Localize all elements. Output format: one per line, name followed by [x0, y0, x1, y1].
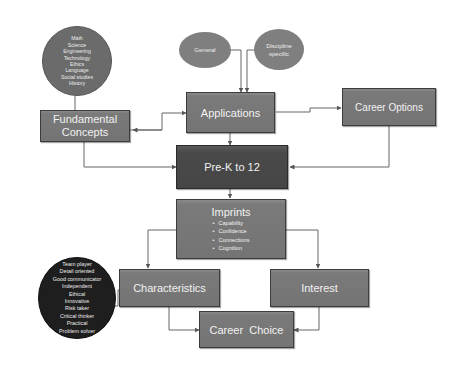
career-choice-box: Career Choice — [199, 311, 294, 348]
trait-item: Detail oriented — [60, 268, 95, 275]
discipline-label-line1: Discipline — [266, 42, 292, 50]
career-options-label: Career Options — [355, 102, 423, 113]
subject-item: History — [69, 80, 85, 86]
trait-item: Risk taker — [65, 305, 89, 312]
prek-to-12-label: Pre-K to 12 — [204, 161, 260, 173]
imprint-bullet: Capability — [212, 219, 249, 228]
career-choice-label: Career Choice — [210, 324, 284, 336]
imprint-bullet: Connections — [212, 236, 249, 245]
interest-box: Interest — [270, 269, 369, 307]
discipline-label-line2: specific — [269, 50, 289, 58]
fundamental-label-line2: Concepts — [62, 126, 108, 139]
career-options-box: Career Options — [342, 88, 436, 126]
imprints-bullet-list: Capability Confidence Connections Cognit… — [212, 219, 249, 253]
imprints-box: Imprints Capability Confidence Connectio… — [176, 199, 286, 259]
imprints-title: Imprints — [211, 206, 250, 218]
imprint-bullet: Confidence — [212, 227, 249, 236]
applications-label: Applications — [201, 107, 260, 119]
trait-item: Critical thinker — [60, 313, 94, 320]
fundamental-label-line1: Fundamental — [53, 113, 117, 126]
trait-item: Problem solver — [59, 328, 95, 335]
general-oval: General — [179, 32, 231, 68]
trait-item: Ethical — [69, 291, 85, 298]
discipline-specific-oval: Discipline specific — [254, 29, 304, 70]
characteristics-label: Characteristics — [133, 282, 206, 294]
fundamental-concepts-box: Fundamental Concepts — [40, 110, 130, 142]
prek-to-12-box: Pre-K to 12 — [176, 145, 288, 189]
characteristics-box: Characteristics — [119, 269, 220, 307]
imprint-bullet: Cognition — [212, 244, 249, 253]
trait-item: Practical — [67, 320, 88, 327]
trait-item: Good communicator — [53, 276, 102, 283]
trait-item: Independent — [62, 283, 92, 290]
trait-item: Team player — [62, 261, 91, 268]
general-label: General — [194, 47, 215, 53]
subjects-circle: Math Science Engineering Technology Ethi… — [42, 26, 112, 96]
traits-circle: Team player Detail oriented Good communi… — [38, 257, 116, 339]
trait-item: Innovative — [65, 298, 90, 305]
applications-box: Applications — [186, 92, 275, 133]
interest-label: Interest — [301, 282, 338, 294]
